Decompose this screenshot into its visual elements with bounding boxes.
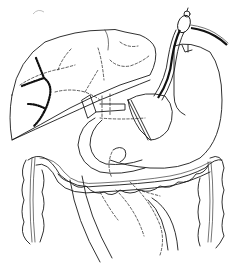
liver-ducts [20,42,150,100]
liver-tumor-infiltration [22,58,50,126]
duodenum [78,118,145,178]
stomach [110,44,222,168]
lower-vessel [148,198,178,250]
aorta [70,176,112,262]
faint-mark [33,10,44,14]
anatomical-illustration [0,0,236,274]
endoscope [154,8,228,100]
descending-colon [198,156,224,248]
ascending-colon [22,158,44,244]
liver [10,29,156,140]
